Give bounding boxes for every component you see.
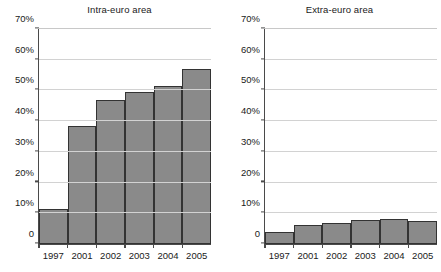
y-tick-mark-60 xyxy=(261,58,265,59)
bar-extra-2002 xyxy=(322,223,351,245)
y-tick-mark-50 xyxy=(35,89,39,90)
x-tick-mark-2004 xyxy=(379,244,380,248)
gridline-10 xyxy=(39,212,211,213)
y-axis-label-50: 50% xyxy=(15,74,34,85)
gridline-10 xyxy=(265,212,437,213)
y-tick-mark-10 xyxy=(261,212,265,213)
y-axis-label-10: 10% xyxy=(241,197,260,208)
y-axis-label-60: 60% xyxy=(241,43,260,54)
bar-intra-2004 xyxy=(154,86,183,244)
x-axis-label-2002: 2002 xyxy=(326,250,347,261)
x-tick-mark-1997 xyxy=(38,244,39,248)
y-axis-label-70: 70% xyxy=(15,13,34,24)
bar-extra-2001 xyxy=(294,225,323,244)
x-axis-label-2001: 2001 xyxy=(297,250,318,261)
x-axis-label-1997: 1997 xyxy=(269,250,290,261)
gridline-70 xyxy=(39,28,211,29)
gridline-40 xyxy=(39,120,211,121)
gridline-20 xyxy=(265,182,437,183)
bar-extra-2004 xyxy=(380,219,409,244)
x-tick-mark-2001 xyxy=(293,244,294,248)
chart-panel-intra-euro-area: Intra-euro area 199720012002200320042005… xyxy=(0,0,215,272)
y-tick-mark-30 xyxy=(261,150,265,151)
gridline-20 xyxy=(39,182,211,183)
gridline-60 xyxy=(265,59,437,60)
gridline-30 xyxy=(265,151,437,152)
y-axis-label-20: 20% xyxy=(15,166,34,177)
gridline-40 xyxy=(265,120,437,121)
y-tick-mark-30 xyxy=(35,150,39,151)
x-tick-mark-2001 xyxy=(67,244,68,248)
x-tick-mark-2002 xyxy=(96,244,97,248)
y-tick-mark-10 xyxy=(35,212,39,213)
y-tick-mark-40 xyxy=(35,119,39,120)
y-tick-mark-60 xyxy=(35,58,39,59)
y-axis-label-20: 20% xyxy=(241,166,260,177)
gridline-50 xyxy=(265,89,437,90)
gridline-30 xyxy=(39,151,211,152)
figure: Intra-euro area 199720012002200320042005… xyxy=(0,0,441,272)
y-tick-mark-20 xyxy=(35,181,39,182)
bar-extra-1997 xyxy=(265,232,294,244)
gridline-60 xyxy=(39,59,211,60)
bar-extra-2003 xyxy=(351,220,380,244)
x-axis-label-1997: 1997 xyxy=(43,250,64,261)
y-tick-mark-20 xyxy=(261,181,265,182)
bar-intra-2003 xyxy=(125,92,154,244)
y-tick-mark-0 xyxy=(35,242,39,243)
x-tick-mark-2004 xyxy=(153,244,154,248)
x-tick-mark-2002 xyxy=(322,244,323,248)
y-tick-mark-0 xyxy=(261,242,265,243)
y-axis-label-60: 60% xyxy=(15,43,34,54)
x-axis-label-2003: 2003 xyxy=(129,250,150,261)
y-axis-label-10: 10% xyxy=(15,197,34,208)
plot-area-left: 199720012002200320042005 010%20%30%40%50… xyxy=(38,29,211,245)
y-axis-label-30: 30% xyxy=(241,135,260,146)
x-tick-mark-2003 xyxy=(350,244,351,248)
y-axis-label-40: 40% xyxy=(241,105,260,116)
y-axis-label-0: 0 xyxy=(255,228,260,239)
bar-intra-2001 xyxy=(68,126,97,244)
plot-area-right: 199720012002200320042005 010%20%30%40%50… xyxy=(264,29,437,245)
y-tick-mark-70 xyxy=(35,27,39,28)
y-tick-mark-50 xyxy=(261,89,265,90)
bar-intra-2005 xyxy=(182,69,211,244)
x-axis-label-2005: 2005 xyxy=(186,250,207,261)
x-tick-mark-2005 xyxy=(408,244,409,248)
y-axis-label-30: 30% xyxy=(15,135,34,146)
y-tick-mark-70 xyxy=(261,27,265,28)
x-axis-label-2004: 2004 xyxy=(157,250,178,261)
x-tick-mark-2005 xyxy=(182,244,183,248)
y-axis-label-70: 70% xyxy=(241,13,260,24)
bar-intra-2002 xyxy=(96,100,125,244)
x-axis-label-2004: 2004 xyxy=(383,250,404,261)
y-tick-mark-40 xyxy=(261,119,265,120)
bar-extra-2005 xyxy=(408,221,437,244)
x-axis-label-2002: 2002 xyxy=(100,250,121,261)
x-tick-mark-2003 xyxy=(124,244,125,248)
gridline-70 xyxy=(265,28,437,29)
x-tick-mark-1997 xyxy=(264,244,265,248)
x-axis-label-2005: 2005 xyxy=(412,250,433,261)
y-axis-label-50: 50% xyxy=(241,74,260,85)
y-axis-label-40: 40% xyxy=(15,105,34,116)
x-axis-label-2001: 2001 xyxy=(71,250,92,261)
gridline-50 xyxy=(39,89,211,90)
x-axis-label-2003: 2003 xyxy=(355,250,376,261)
chart-panel-extra-euro-area: Extra-euro area 199720012002200320042005… xyxy=(222,0,441,272)
bar-intra-1997 xyxy=(39,209,68,244)
y-axis-label-0: 0 xyxy=(29,228,34,239)
